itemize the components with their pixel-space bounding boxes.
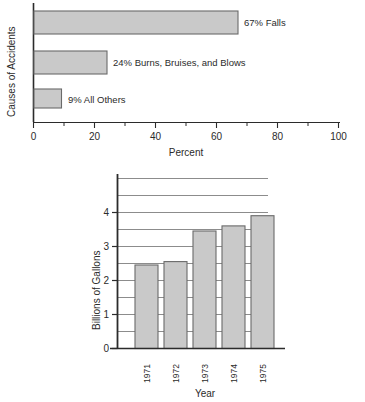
chart2-ytick-0: 0 — [103, 343, 109, 354]
chart1-xtick-60: 60 — [211, 131, 223, 142]
chart1-xtick-100: 100 — [330, 131, 347, 142]
chart2-bars — [135, 216, 274, 349]
gallons-bar-chart: 0 1 2 3 4 Billions of Gallons 1971 1972 … — [91, 174, 285, 399]
bar-burns-bruises-blows — [34, 51, 107, 74]
chart2-y-axis-title: Billions of Gallons — [91, 251, 102, 330]
bar-falls — [34, 11, 238, 34]
chart2-ytick-1: 1 — [103, 309, 109, 320]
chart2-xtick-1972: 1972 — [171, 364, 181, 383]
bar-label-falls: 67% Falls — [244, 17, 286, 28]
chart2-x-tick-labels: 1971 1972 1973 1974 1975 — [142, 364, 268, 383]
bar-1973 — [193, 231, 216, 349]
bar-all-others — [34, 89, 62, 108]
chart2-ytick-4: 4 — [103, 207, 109, 218]
chart2-ytick-3: 3 — [103, 241, 109, 252]
chart1-xtick-20: 20 — [89, 131, 101, 142]
chart1-y-axis-title: Causes of Accidents — [6, 26, 17, 117]
bar-1971 — [135, 265, 158, 349]
chart1-x-tick-labels: 0 20 40 60 80 100 — [31, 131, 348, 142]
chart2-xtick-1973: 1973 — [200, 364, 210, 383]
chart1-xtick-0: 0 — [31, 131, 37, 142]
figure-svg: Causes of Accidents 67% Falls 24% Burns,… — [0, 0, 365, 402]
chart2-xtick-1974: 1974 — [229, 364, 239, 383]
chart2-xtick-1975: 1975 — [258, 364, 268, 383]
chart1-xtick-80: 80 — [272, 131, 284, 142]
chart2-y-tick-labels: 0 1 2 3 4 — [103, 207, 109, 354]
chart1-xtick-40: 40 — [150, 131, 162, 142]
bar-label-all-others: 9% All Others — [68, 94, 126, 105]
chart2-x-axis-title: Year — [195, 388, 216, 399]
bar-1975 — [251, 216, 274, 349]
bar-1972 — [164, 262, 187, 349]
figure-container: Causes of Accidents 67% Falls 24% Burns,… — [0, 0, 365, 402]
chart2-ytick-2: 2 — [103, 275, 109, 286]
chart1-x-axis-title: Percent — [169, 147, 204, 158]
chart2-xtick-1971: 1971 — [142, 364, 152, 383]
bar-1974 — [222, 226, 245, 349]
bar-label-burns-bruises-blows: 24% Burns, Bruises, and Blows — [113, 57, 246, 68]
accidents-bar-chart: Causes of Accidents 67% Falls 24% Burns,… — [6, 3, 347, 158]
